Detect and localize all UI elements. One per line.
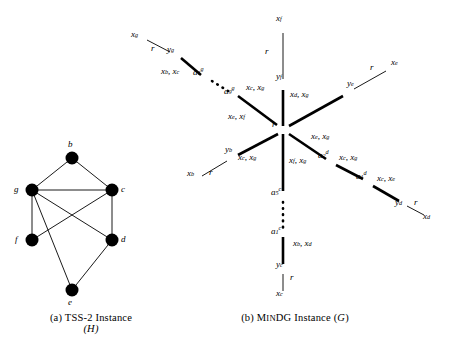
edge-label-a2d-a1d: xc, xg xyxy=(339,152,357,162)
node-f xyxy=(26,234,39,247)
edge-label-yf-r: xd, xg xyxy=(290,89,309,99)
panel-b-graph xyxy=(147,33,424,291)
edge-d-e xyxy=(72,240,112,290)
edge-xb-yb xyxy=(202,161,227,176)
node-label-a9g: a9g xyxy=(224,84,235,96)
panel-a-graph xyxy=(26,152,119,297)
node-label-yf: yf xyxy=(276,71,282,81)
figure-container: b g c f d e xf yf r xg yg a1g a9g ye xe … xyxy=(0,0,452,355)
edge-label-xg-r: r xyxy=(151,43,155,53)
edge-xe-ye xyxy=(354,71,386,89)
node-g xyxy=(26,184,39,197)
node-label-c: c xyxy=(121,184,125,194)
edge-label-ye-r: xe, xg xyxy=(311,131,329,141)
node-label-xg: xg xyxy=(131,29,138,39)
caption-a-line2: (H) xyxy=(6,323,176,334)
caption-panel-b: (b) MINDG Instance (G) xyxy=(200,312,390,323)
caption-a-line1: (a) TSS-2 Instance xyxy=(6,312,176,323)
node-label-a1d: a1d xyxy=(356,169,367,181)
edge-label-xb-r: r xyxy=(209,167,213,177)
edge-label-xc-r: r xyxy=(290,272,294,282)
node-label-xc: xc xyxy=(276,288,283,298)
caption-b-smallcaps-m: M xyxy=(257,312,267,323)
edge-label-a9g-r-lower: xe, xf xyxy=(228,111,245,121)
node-label-yb: yb xyxy=(225,144,232,154)
caption-b-line1: (b) MINDG Instance (G) xyxy=(200,312,390,323)
panel-b-thin-edges xyxy=(147,33,424,291)
edge-label-yb-r: xc, xg xyxy=(238,152,256,162)
node-label-g: g xyxy=(14,184,19,194)
edge-ye-r xyxy=(289,96,343,126)
node-c xyxy=(106,184,119,197)
edge-label-yg-a1g: xb, xc xyxy=(161,66,179,76)
caption-b-suffix: Instance (G) xyxy=(291,312,348,323)
edge-label-xe-r: r xyxy=(370,62,374,72)
node-label-xb: xb xyxy=(187,168,194,178)
node-label-xe: xe xyxy=(391,57,398,67)
edge-b-g xyxy=(32,158,72,190)
node-label-e: e xyxy=(68,297,72,307)
panel-a-nodes xyxy=(26,152,119,297)
node-label-a5c: a5c xyxy=(271,185,281,197)
edge-xd-yd xyxy=(407,206,424,215)
edge-label-a9g-r-upper: xc, xg xyxy=(246,82,264,92)
edge-b-c xyxy=(72,158,112,190)
caption-b-smallcaps-in: IN xyxy=(266,313,275,323)
node-label-xd: xd xyxy=(423,211,430,221)
node-label-a1g: a1g xyxy=(193,65,204,77)
node-b xyxy=(66,152,79,165)
node-label-d: d xyxy=(121,234,126,244)
edge-label-r-a5c: xf, xg xyxy=(289,155,306,165)
node-label-yg: yg xyxy=(167,44,174,54)
edge-label-a1c-yc: xb, xd xyxy=(293,238,312,248)
node-label-b: b xyxy=(68,139,73,149)
edge-label-a1d-yd: xc, xe xyxy=(377,173,395,183)
node-label-a1c: a1c xyxy=(271,224,281,236)
edge-label-xf-r: r xyxy=(265,46,269,56)
node-label-yd: yd xyxy=(395,197,402,207)
caption-panel-a: (a) TSS-2 Instance (H) xyxy=(6,312,176,334)
edge-label-xd-r: r xyxy=(414,197,418,207)
node-label-xf: xf xyxy=(276,13,282,23)
node-label-f: f xyxy=(15,234,18,244)
caption-b-smallcaps-dg: DG xyxy=(276,312,292,323)
panel-a-edges xyxy=(32,158,112,290)
node-label-ye: ye xyxy=(347,78,354,88)
node-d xyxy=(106,234,119,247)
node-e xyxy=(66,284,79,297)
node-label-yc: yc xyxy=(276,259,283,269)
node-label-a2d: a2d xyxy=(318,148,329,160)
caption-b-prefix: (b) xyxy=(241,312,257,323)
node-label-r-hub: r xyxy=(272,119,276,129)
